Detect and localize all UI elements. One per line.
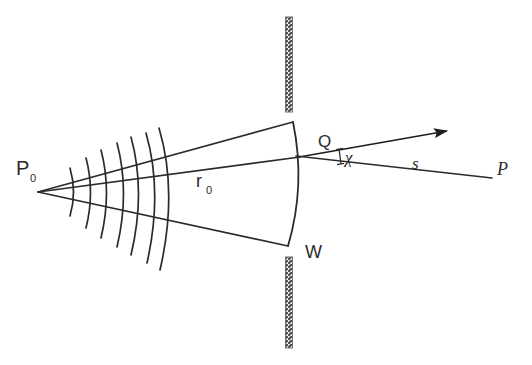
- angle-label-chi: χ: [343, 148, 353, 167]
- diffraction-diagram-figure: P 0 r 0 Q χ s P W: [0, 0, 532, 365]
- barrier-lower-segment: [286, 257, 293, 348]
- aperture-point-label: Q: [318, 132, 331, 151]
- radius-label-subscript: 0: [206, 184, 212, 196]
- distance-label-s: s: [412, 154, 419, 173]
- observation-point-label-P: P: [496, 159, 508, 179]
- figure-background: [0, 0, 532, 365]
- barrier-upper-hatched-strip: [286, 17, 293, 112]
- source-point-label-subscript: 0: [30, 172, 36, 184]
- barrier-lower-hatched-strip: [286, 257, 293, 348]
- barrier-upper-segment: [286, 17, 293, 112]
- diagram-canvas: P 0 r 0 Q χ s P W: [0, 0, 532, 365]
- wavefront-label-W: W: [305, 242, 322, 262]
- source-point-label-main: P: [16, 157, 29, 179]
- radius-label-main: r: [196, 171, 202, 191]
